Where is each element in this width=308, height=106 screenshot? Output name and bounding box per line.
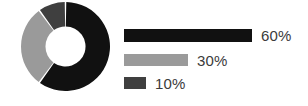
donut-chart bbox=[21, 2, 110, 91]
legend-item-30: 30% bbox=[124, 49, 227, 71]
bar-legend: 60% 30% 10% bbox=[124, 24, 308, 100]
donut-percentage-figure: 60% 30% 10% bbox=[0, 0, 308, 106]
legend-label-60: 60% bbox=[261, 28, 291, 43]
donut-chart-svg bbox=[21, 2, 110, 91]
legend-bar-60 bbox=[124, 29, 252, 42]
legend-item-60: 60% bbox=[124, 24, 291, 46]
donut-segment-group bbox=[21, 2, 110, 91]
legend-label-30: 30% bbox=[197, 53, 227, 68]
legend-item-10: 10% bbox=[124, 72, 185, 94]
legend-bar-10 bbox=[124, 77, 146, 89]
legend-label-10: 10% bbox=[155, 76, 185, 91]
legend-bar-30 bbox=[124, 54, 188, 66]
